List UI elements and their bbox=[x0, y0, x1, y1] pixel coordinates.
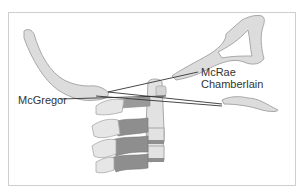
vertebra-body-c3 bbox=[148, 128, 164, 142]
label-chamberlain: Chamberlain bbox=[201, 78, 263, 90]
spinous-process-3 bbox=[92, 139, 116, 157]
spinous-process-2 bbox=[92, 119, 120, 137]
posterior-arch-c4 bbox=[110, 154, 148, 172]
posterior-arch-c1 bbox=[120, 96, 150, 108]
vertebra-body-c4 bbox=[148, 146, 164, 160]
label-mcrae: McRae bbox=[201, 66, 236, 78]
atlas-anterior-arch bbox=[156, 86, 166, 96]
spinous-process-1 bbox=[96, 99, 124, 115]
palate-tip bbox=[222, 97, 278, 112]
posterior-arch-c3 bbox=[112, 136, 148, 156]
disc-2 bbox=[148, 158, 164, 162]
label-mcgregor: McGregor bbox=[18, 94, 67, 106]
spinous-process-4 bbox=[96, 157, 114, 173]
disc-1 bbox=[148, 140, 164, 144]
occipital-bone bbox=[24, 30, 108, 101]
